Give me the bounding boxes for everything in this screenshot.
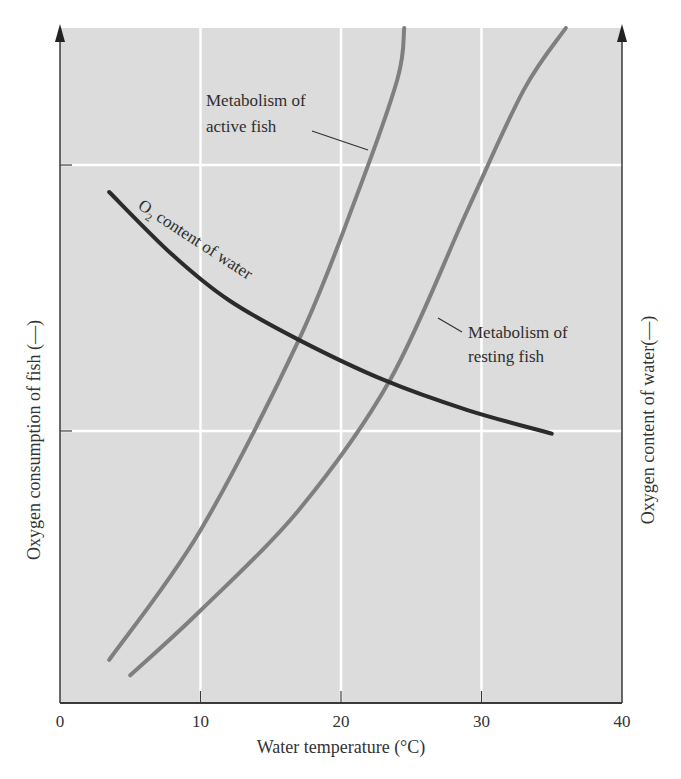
annotation-resting-line1: Metabolism of [468, 323, 568, 342]
x-tick-label: 10 [192, 712, 209, 731]
x-axis-title: Water temperature (°C) [257, 737, 426, 758]
chart: 010203040 Metabolism of active fish O2co… [0, 0, 681, 779]
annotation-active-line1: Metabolism of [206, 91, 306, 110]
x-tick-label: 0 [56, 712, 65, 731]
annotation-active-line2: active fish [206, 117, 277, 136]
y-axis-left-title: Oxygen consumption of fish (—) [24, 320, 45, 560]
x-tick-label: 30 [473, 712, 490, 731]
y-axis-right-title: Oxygen content of water(—) [638, 316, 659, 524]
x-tick-label: 40 [614, 712, 631, 731]
x-tick-label: 20 [333, 712, 350, 731]
annotation-resting-line2: resting fish [468, 347, 545, 366]
